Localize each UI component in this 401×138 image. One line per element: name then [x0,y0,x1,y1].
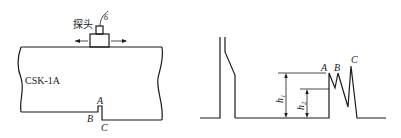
echo-label-a: A [320,62,328,73]
initial-pulse-tail [225,37,235,118]
notch-label-b: B [87,113,93,124]
probe-head [96,26,103,34]
echo-trace [235,66,386,118]
notch-label-c: C [101,122,108,133]
echo-label-b: B [334,62,340,73]
probe-body [90,34,109,47]
right-arrow-icon [111,39,127,43]
block-left-break-edge [18,47,22,112]
echo-waveform-diagram: h1 h2 A B C [200,37,386,118]
echo-label-c: C [351,54,358,65]
test-block-diagram: 6 探头 CSK-1A A B C [18,11,163,133]
initial-pulse [200,37,220,118]
block-right-break-edge [158,47,163,120]
h2-label: h2 [295,101,308,110]
probe-label: 探头 [73,18,93,30]
notch-label-a: A [96,95,104,106]
block-label: CSK-1A [25,75,61,86]
cable-label: 6 [104,13,108,22]
h1-label: h1 [274,95,287,104]
left-arrow-icon [75,39,88,43]
ultrasonic-calibration-diagram: 6 探头 CSK-1A A B C [0,0,401,138]
